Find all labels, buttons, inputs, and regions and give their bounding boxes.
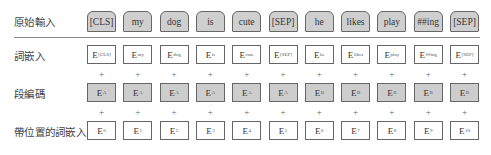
position-embedding-box: E2 (160, 121, 189, 140)
position-embedding-box: E5 (269, 121, 298, 140)
segment-embedding-box: EA (269, 83, 298, 102)
token-box: cute (232, 11, 261, 32)
token-box: my (123, 11, 152, 32)
position-embedding-box: E9 (414, 121, 443, 140)
plus-sign: + (123, 69, 152, 79)
token-embedding-box: Edog (160, 45, 189, 64)
position-embedding-box: E10 (450, 121, 479, 140)
plus-sign: + (341, 107, 370, 117)
plus-sign: + (341, 69, 370, 79)
token-embedding-box: Elikes (341, 45, 370, 64)
segment-embedding-box: EB (414, 83, 443, 102)
segment-embedding-box: EA (123, 83, 152, 102)
segment-embedding-box: EB (377, 83, 406, 102)
token-embedding-box: E[SEP] (450, 45, 479, 64)
plus-sign: + (232, 107, 261, 117)
position-embedding-box: E4 (232, 121, 261, 140)
token-box: [SEP] (450, 11, 479, 32)
label-token-embeddings: 詞嵌入 (14, 48, 45, 63)
token-embedding-box: Emy (123, 45, 152, 64)
plus-sign: + (123, 107, 152, 117)
plus-row: + + + + + + + + + + + (87, 107, 479, 117)
token-box: [CLS] (87, 11, 116, 32)
plus-sign: + (232, 69, 261, 79)
position-embedding-box: E3 (196, 121, 225, 140)
segment-embedding-box: EA (160, 83, 189, 102)
plus-sign: + (87, 107, 116, 117)
position-embedding-box: E1 (123, 121, 152, 140)
plus-sign: + (160, 107, 189, 117)
segment-embedding-box: EA (87, 83, 116, 102)
token-box: likes (341, 11, 370, 32)
label-input: 原始輸入 (14, 14, 55, 29)
token-box: play (377, 11, 406, 32)
token-embedding-box: E[SEP] (269, 45, 298, 64)
token-embedding-box: E[CLS] (87, 45, 116, 64)
token-embedding-box: Ecute (232, 45, 261, 64)
position-embedding-row: E0 E1 E2 E3 E4 E5 E6 E7 E8 E9 E10 (87, 121, 479, 142)
plus-sign: + (160, 69, 189, 79)
plus-sign: + (450, 107, 479, 117)
token-box: [SEP] (269, 11, 298, 32)
plus-sign: + (377, 69, 406, 79)
label-segment-embeddings: 段編碼 (14, 86, 45, 101)
segment-embedding-box: EA (196, 83, 225, 102)
segment-embedding-box: EB (450, 83, 479, 102)
plus-sign: + (305, 69, 334, 79)
segment-embedding-box: EA (232, 83, 261, 102)
position-embedding-box: E6 (305, 121, 334, 140)
token-box: is (196, 11, 225, 32)
position-embedding-box: E8 (377, 121, 406, 140)
plus-sign: + (269, 69, 298, 79)
plus-row: + + + + + + + + + + + (87, 69, 479, 79)
token-box: ##ing (414, 11, 443, 32)
plus-sign: + (450, 69, 479, 79)
token-embedding-box: Eis (196, 45, 225, 64)
plus-sign: + (414, 69, 443, 79)
token-embedding-box: Eplay (377, 45, 406, 64)
token-box: dog (160, 11, 189, 32)
segment-embedding-box: EB (305, 83, 334, 102)
segment-embedding-box: EB (341, 83, 370, 102)
token-embedding-row: E[CLS] Emy Edog Eis Ecute E[SEP] Ehe Eli… (87, 45, 479, 66)
token-embedding-box: E##ing (414, 45, 443, 64)
input-token-row: [CLS] my dog is cute [SEP] he likes play… (87, 11, 479, 32)
plus-sign: + (196, 69, 225, 79)
position-embedding-box: E7 (341, 121, 370, 140)
position-embedding-box: E0 (87, 121, 116, 140)
token-embedding-box: Ehe (305, 45, 334, 64)
plus-sign: + (87, 69, 116, 79)
plus-sign: + (269, 107, 298, 117)
plus-sign: + (305, 107, 334, 117)
token-box: he (305, 11, 334, 32)
plus-sign: + (377, 107, 406, 117)
segment-embedding-row: EA EA EA EA EA EA EB EB EB EB EB (87, 83, 479, 104)
divider-line (14, 37, 480, 38)
label-position-embeddings: 帶位置的詞嵌入 (14, 124, 86, 139)
plus-sign: + (414, 107, 443, 117)
plus-sign: + (196, 107, 225, 117)
